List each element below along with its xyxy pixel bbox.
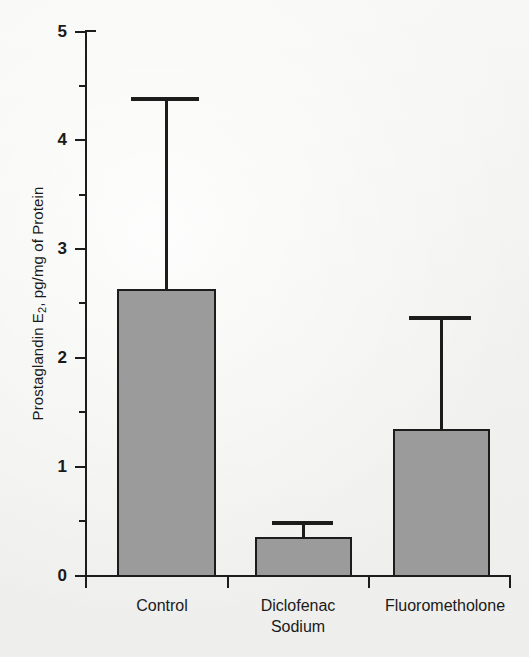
y-tick-label-1: 1 [47,458,67,475]
y-axis-top-cap [85,30,96,32]
x-tick-divider-2 [368,575,370,588]
x-tick-divider-1 [227,575,229,588]
y-tick-minor-0-5 [79,520,86,522]
y-tick-minor-2-5 [79,302,86,304]
y-tick-label-3: 3 [47,240,67,257]
y-tick-minor-3-5 [79,194,86,196]
error-cap-control [131,97,199,101]
y-axis-title-prefix: Prostaglandin E [29,313,46,420]
error-cap-fluorometholone [409,316,471,320]
y-axis-title-suffix: , pg/mg of Protein [29,187,46,307]
x-tick-start [85,575,87,588]
x-axis-end-cap [509,575,511,588]
x-category-label-control: Control [96,595,228,616]
bar-control [117,289,216,577]
figure-container: Prostaglandin E2, pg/mg of Protein 5 4 3… [0,0,529,657]
y-tick-1 [75,466,86,468]
x-category-label-fluorometholone: Fluorometholone [371,595,519,616]
error-stem-control [165,99,168,291]
error-cap-diclofenac-sodium [272,521,333,525]
y-tick-label-2: 2 [47,349,67,366]
y-tick-minor-1-5 [79,411,86,413]
y-tick-5 [75,31,86,33]
y-tick-minor-4-5 [79,85,86,87]
y-axis-title-subscript: 2 [36,307,48,313]
y-tick-3 [75,248,86,250]
x-category-label-diclofenac-sodium: Diclofenac Sodium [235,595,361,637]
y-tick-4 [75,139,86,141]
y-tick-2 [75,357,86,359]
y-tick-label-5: 5 [47,23,67,40]
y-tick-label-4: 4 [47,131,67,148]
error-stem-fluorometholone [440,318,443,431]
error-stem-diclofenac-sodium [302,523,305,539]
y-tick-label-0: 0 [47,567,67,584]
y-axis-title: Prostaglandin E2, pg/mg of Protein [22,32,54,575]
bar-diclofenac-sodium [255,537,352,577]
bar-fluorometholone [393,429,490,577]
